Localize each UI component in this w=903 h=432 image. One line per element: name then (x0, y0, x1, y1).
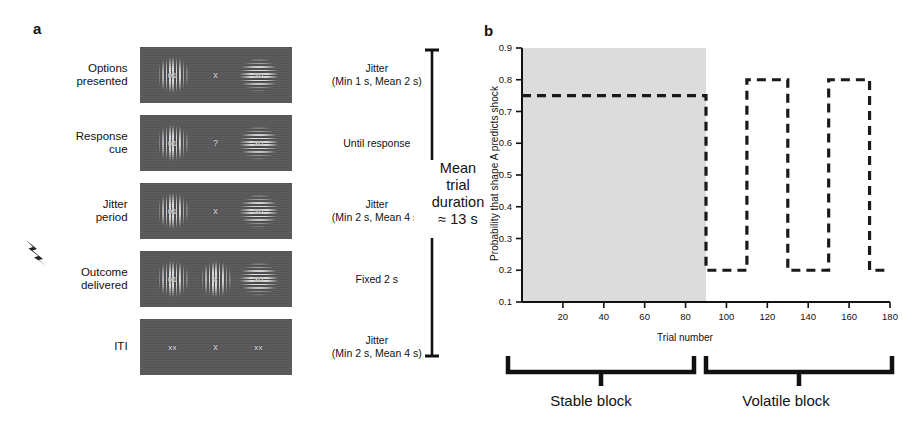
panel-a: a Options presented01x30Jitter (Min 1 s,… (0, 0, 460, 432)
stimulus-label: 30 (254, 275, 264, 284)
stable-block-shading (522, 48, 706, 302)
blank-stimulus-area: xx (238, 327, 280, 367)
horizontal-grating-icon: 30 (238, 191, 280, 231)
y-tick-label: 0.4 (488, 201, 512, 212)
x-axis-label: Trial number (470, 332, 900, 343)
fixation-symbol: x (213, 70, 218, 80)
blank-stimulus-area: xx (152, 327, 194, 367)
block-brackets-icon (470, 352, 900, 392)
vertical-grating-icon: 01 (152, 191, 194, 231)
fixation-symbol: x (213, 206, 218, 216)
vertical-grating-icon: 01 (152, 259, 194, 299)
chart-canvas (470, 40, 900, 330)
stable-block-caption: Stable block (496, 392, 686, 409)
fixation-area: ? (195, 123, 237, 163)
vertical-grating-icon: 01 (152, 123, 194, 163)
trial-stage-row: Response cue01?30Until response (30, 114, 450, 172)
y-tick-label: 0.7 (488, 106, 512, 117)
stimulus-label: 30 (254, 71, 264, 80)
stimulus-screen: 01x30 (140, 183, 292, 239)
x-tick-label: 180 (876, 311, 903, 322)
x-tick-label: 120 (753, 311, 781, 322)
volatile-block-caption: Volatile block (686, 392, 886, 409)
panel-b-letter: b (484, 22, 493, 39)
stage-label: Jitter period (30, 198, 140, 225)
fixation-symbol: x (213, 274, 218, 284)
vertical-grating-icon: 01 (152, 55, 194, 95)
fixation-area: x (195, 327, 237, 367)
stimulus-label: 30 (254, 139, 264, 148)
stimulus-label: xx (168, 343, 177, 352)
stimulus-label: 01 (168, 139, 178, 148)
y-tick-label: 0.8 (488, 74, 512, 85)
vertical-grating-icon: x (195, 259, 237, 299)
y-tick-label: 0.6 (488, 137, 512, 148)
horizontal-grating-icon: 30 (238, 55, 280, 95)
lightning-bolt-icon (23, 238, 51, 268)
trial-stage-row: Options presented01x30Jitter (Min 1 s, M… (30, 46, 450, 104)
x-tick-label: 20 (549, 311, 577, 322)
stimulus-screen: 01x30 (140, 47, 292, 103)
x-tick-label: 80 (672, 311, 700, 322)
probability-chart: Probability that shape A predicts shock … (470, 40, 900, 360)
x-tick-label: 100 (712, 311, 740, 322)
y-tick-label: 0.3 (488, 233, 512, 244)
x-tick-label: 140 (794, 311, 822, 322)
figure-root: a Options presented01x30Jitter (Min 1 s,… (0, 0, 903, 432)
y-tick-label: 0.9 (488, 42, 512, 53)
stage-label: ITI (30, 340, 140, 354)
stimulus-screen: xxxxx (140, 319, 292, 375)
trial-stage-row: Jitter period01x30Jitter (Min 2 s, Mean … (30, 182, 450, 240)
fixation-area: x (195, 191, 237, 231)
x-tick-label: 40 (590, 311, 618, 322)
stimulus-screen: 01?30 (140, 115, 292, 171)
stage-label: Response cue (30, 130, 140, 157)
x-tick-label: 60 (631, 311, 659, 322)
stage-label: Options presented (30, 62, 140, 89)
y-tick-label: 0.5 (488, 169, 512, 180)
stage-label: Outcome delivered (30, 266, 140, 293)
trial-stage-row: ITIxxxxxJitter (Min 2 s, Mean 4 s) (30, 318, 450, 376)
stimulus-screen: 01x30 (140, 251, 292, 307)
horizontal-grating-icon: 30 (238, 123, 280, 163)
stimulus-label: 30 (254, 207, 264, 216)
y-tick-label: 0.1 (488, 296, 512, 307)
fixation-symbol: x (213, 342, 218, 352)
trial-stage-row: Outcome delivered01x30Fixed 2 s (30, 250, 450, 308)
stimulus-label: 01 (168, 71, 178, 80)
trial-sequence-list: Options presented01x30Jitter (Min 1 s, M… (30, 46, 450, 386)
panel-a-letter: a (33, 20, 41, 37)
fixation-area: x (195, 55, 237, 95)
y-tick-label: 0.2 (488, 264, 512, 275)
panel-b: b Probability that shape A predicts shoc… (460, 0, 903, 432)
stimulus-label: 01 (168, 275, 178, 284)
stimulus-label: xx (254, 343, 263, 352)
horizontal-grating-icon: 30 (238, 259, 280, 299)
x-tick-label: 160 (835, 311, 863, 322)
fixation-symbol: ? (213, 138, 218, 148)
stimulus-label: 01 (168, 207, 178, 216)
